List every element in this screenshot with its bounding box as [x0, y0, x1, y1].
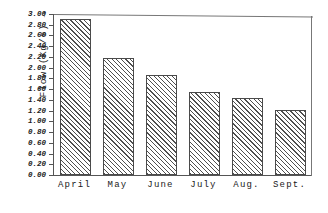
- x-axis-tick-label: April: [58, 180, 91, 190]
- x-axis-tick-label: May: [108, 180, 128, 190]
- bar: [275, 110, 306, 175]
- x-axis-tick-label: Aug.: [233, 180, 259, 190]
- plot-area: 3.002.802.602.402.202.001.801.601.401.20…: [53, 14, 312, 176]
- y-axis-title: Flow (Kg/s) →: [36, 0, 52, 124]
- bar-series: [54, 14, 312, 175]
- y-axis-tick-label: 2.00: [28, 64, 46, 72]
- y-axis-tick-label: 3.00: [28, 10, 46, 18]
- bar: [60, 19, 91, 175]
- bar: [189, 92, 220, 175]
- bar-chart-figure: Flow (Kg/s) → 3.002.802.602.402.202.001.…: [0, 0, 328, 213]
- y-axis-tick-label: 1.20: [28, 107, 46, 115]
- y-axis-tick-label: 0.00: [28, 171, 46, 179]
- y-axis-tick-label: 2.80: [28, 21, 46, 29]
- y-axis-tick-label: 2.20: [28, 53, 46, 61]
- y-axis-tick-label: 0.60: [28, 139, 46, 147]
- y-axis-tick-label: 1.00: [28, 117, 46, 125]
- bar: [232, 98, 263, 175]
- y-axis-tick-label: 0.80: [28, 128, 46, 136]
- y-axis-tick: [49, 175, 54, 176]
- y-axis-tick-label: 0.40: [28, 150, 46, 158]
- y-axis-tick-label: 2.60: [28, 31, 46, 39]
- x-axis-tick-label: Sept.: [273, 180, 306, 190]
- y-axis-tick-label: 1.80: [28, 74, 46, 82]
- y-axis-tick-label: 1.60: [28, 85, 46, 93]
- x-axis-tick-label: July: [190, 180, 216, 190]
- y-axis-tick-label: 2.40: [28, 42, 46, 50]
- y-axis-tick-label: 0.20: [28, 160, 46, 168]
- bar: [103, 58, 134, 175]
- y-axis-tick-label: 1.40: [28, 96, 46, 104]
- bar: [146, 75, 177, 175]
- x-axis-tick-label: June: [147, 180, 173, 190]
